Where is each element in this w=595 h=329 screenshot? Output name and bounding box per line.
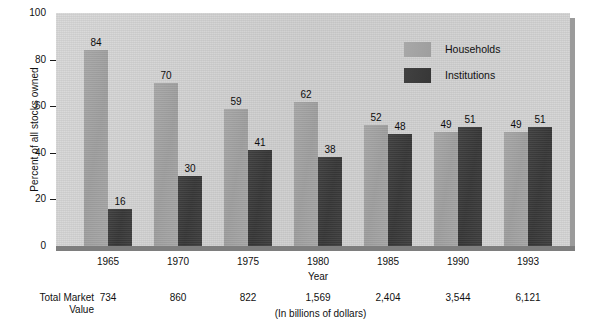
bar-value-label-institutions: 51 [455, 114, 485, 125]
legend-label-households: Households [445, 42, 500, 57]
bar-households [84, 50, 108, 246]
y-axis-tick-label: 80 [6, 55, 46, 65]
bar-institutions [318, 157, 342, 246]
bar-value-label-households: 84 [81, 37, 111, 48]
bar-value-label-households: 62 [291, 89, 321, 100]
total-market-value-cell: 860 [143, 292, 213, 303]
bar-value-label-institutions: 51 [525, 114, 555, 125]
units-note-text: (In billions of dollars) [275, 308, 367, 319]
y-axis-tick-label: 100 [6, 8, 46, 18]
total-market-value-cell: 3,544 [423, 292, 493, 303]
bar-institutions [248, 150, 272, 246]
bar-texture [364, 125, 388, 246]
y-axis-title: Percent of all stocks owned [29, 10, 40, 250]
bar-group: 4951 [504, 13, 552, 246]
bar-households [364, 125, 388, 246]
x-axis-tick-label: 1985 [353, 256, 423, 267]
bar-group: 8416 [84, 13, 132, 246]
bar-households [434, 132, 458, 246]
y-axis-tick-label: 60 [6, 101, 46, 111]
y-axis-tick-label: 20 [6, 194, 46, 204]
bar-value-label-institutions: 16 [105, 196, 135, 207]
total-market-value-cell: 822 [213, 292, 283, 303]
bar-texture [224, 109, 248, 246]
bar-households [504, 132, 528, 246]
legend-swatch-households [404, 42, 431, 57]
bar-value-label-households: 70 [151, 70, 181, 81]
bar-group: 7030 [154, 13, 202, 246]
bar-value-label-institutions: 30 [175, 163, 205, 174]
bar-group: 5941 [224, 13, 272, 246]
x-axis-tick-label: 1965 [73, 256, 143, 267]
bar-institutions [388, 134, 412, 246]
x-axis-tick-label: 1975 [213, 256, 283, 267]
axis-baseline [56, 246, 575, 251]
x-axis-tick-label: 1970 [143, 256, 213, 267]
bar-texture [528, 127, 552, 246]
bar-texture [388, 134, 412, 246]
bar-texture [84, 50, 108, 246]
total-market-value-cell: 6,121 [493, 292, 563, 303]
bar-households [294, 102, 318, 246]
bar-texture [458, 127, 482, 246]
bar-value-label-institutions: 38 [315, 144, 345, 155]
bar-institutions [178, 176, 202, 246]
bar-group: 6238 [294, 13, 342, 246]
legend-swatch-institutions [404, 68, 431, 83]
x-axis-title: Year [283, 271, 353, 282]
total-market-value-cell: 734 [73, 292, 143, 303]
bar-value-label-institutions: 41 [245, 137, 275, 148]
y-axis-tick-label: 0 [6, 241, 46, 251]
bar-value-label-households: 59 [221, 96, 251, 107]
y-axis-tick-label: 40 [6, 148, 46, 158]
bar-institutions [528, 127, 552, 246]
total-market-value-cell: 1,569 [283, 292, 353, 303]
bar-texture [294, 102, 318, 246]
bar-texture [434, 132, 458, 246]
bar-texture [248, 150, 272, 246]
bar-value-label-institutions: 48 [385, 121, 415, 132]
bar-households [224, 109, 248, 246]
plot-area-wrapper: 8416703059416238524849514951 Households … [56, 13, 575, 251]
total-market-value-cell: 2,404 [353, 292, 423, 303]
bar-texture [108, 209, 132, 246]
bar-texture [504, 132, 528, 246]
units-note: (In billions of dollars) [0, 308, 595, 319]
x-axis-tick-label: 1980 [283, 256, 353, 267]
bar-institutions [458, 127, 482, 246]
chart-figure: Percent of all stocks owned 020406080100… [0, 0, 595, 329]
plot-area: 8416703059416238524849514951 Households … [56, 13, 570, 246]
bar-institutions [108, 209, 132, 246]
bar-texture [318, 157, 342, 246]
x-axis-tick-label: 1993 [493, 256, 563, 267]
legend-label-institutions: Institutions [445, 68, 495, 83]
bar-texture [178, 176, 202, 246]
x-axis-tick-label: 1990 [423, 256, 493, 267]
